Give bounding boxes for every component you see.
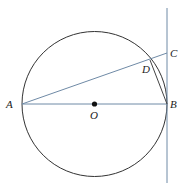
label-C: C <box>170 47 178 59</box>
center-point-O <box>92 101 97 106</box>
label-O: O <box>90 109 98 121</box>
label-D: D <box>141 63 150 75</box>
label-B: B <box>170 98 177 110</box>
label-A: A <box>5 98 13 110</box>
segment-DB <box>150 60 167 104</box>
segment-AC <box>22 53 167 104</box>
geometry-diagram: A B C D O <box>0 0 183 189</box>
